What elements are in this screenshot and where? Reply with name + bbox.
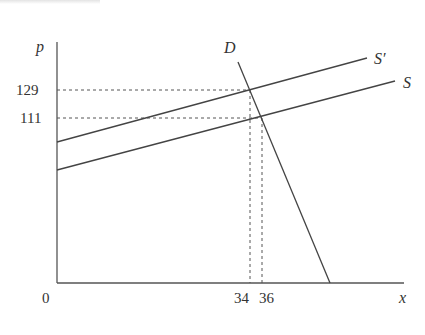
y-tick-129: 129 — [16, 82, 39, 98]
x-tick-36: 36 — [259, 290, 275, 306]
x-tick-34: 34 — [234, 290, 250, 306]
x-axis-label: x — [398, 289, 406, 306]
supply-label: S — [403, 74, 411, 91]
supply-curve — [57, 81, 395, 170]
supply-shifted-label: S′ — [374, 50, 386, 67]
demand-curve — [238, 62, 330, 283]
supply-demand-diagram: p x 0 129 111 34 36 D S′ S — [0, 0, 425, 335]
origin-label: 0 — [42, 290, 50, 306]
y-tick-111: 111 — [20, 110, 41, 126]
y-axis-label: p — [35, 38, 44, 56]
demand-label: D — [223, 39, 236, 56]
